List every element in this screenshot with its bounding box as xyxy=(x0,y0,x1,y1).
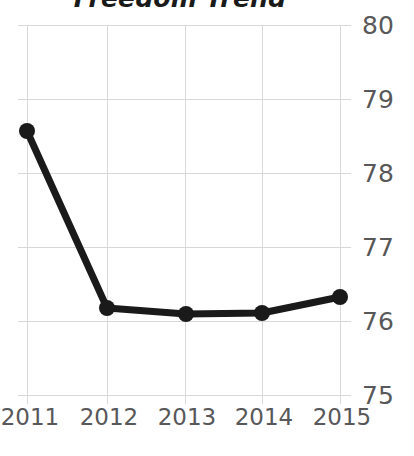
y-axis-tick-79: 79 xyxy=(362,85,412,114)
horizontal-gridlines xyxy=(18,26,351,396)
data-line-freedom-trend xyxy=(27,131,340,314)
x-axis-tick-2015: 2015 xyxy=(297,404,387,430)
y-axis-tick-76: 76 xyxy=(362,307,412,336)
y-axis-tick-80: 80 xyxy=(362,11,412,40)
data-point-2012[interactable] xyxy=(99,300,115,316)
data-point-2014[interactable] xyxy=(254,305,270,321)
y-axis-tick-78: 78 xyxy=(362,159,412,188)
chart-container: Freedom Trend 80 xyxy=(0,0,414,456)
x-axis-tick-2014: 2014 xyxy=(219,404,309,430)
data-point-2015[interactable] xyxy=(332,289,348,305)
data-point-2013[interactable] xyxy=(178,306,194,322)
line-chart-plot xyxy=(0,0,414,456)
x-axis-tick-2012: 2012 xyxy=(64,404,154,430)
data-point-2011[interactable] xyxy=(19,123,35,139)
y-axis-tick-77: 77 xyxy=(362,233,412,262)
vertical-gridlines xyxy=(28,25,341,404)
